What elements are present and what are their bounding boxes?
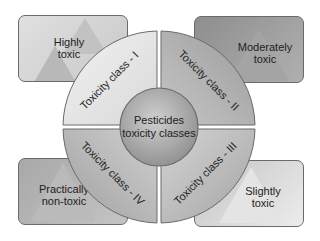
toxicity-ring-diagram: Toxicity class - I Toxicity class - II T… <box>0 0 320 241</box>
center-label-line2: toxicity classes <box>122 127 196 139</box>
center-label-line1: Pesticides <box>134 114 185 126</box>
